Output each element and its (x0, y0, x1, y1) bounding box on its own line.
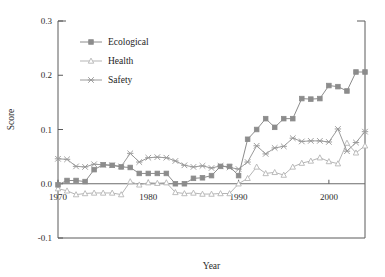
data-marker (353, 140, 359, 146)
data-marker (281, 144, 287, 150)
data-marker (272, 125, 277, 130)
data-marker (200, 175, 205, 180)
cross-marker (172, 158, 178, 164)
cross-marker (208, 165, 214, 171)
data-marker (244, 159, 250, 165)
data-marker (154, 154, 160, 160)
data-marker (317, 138, 323, 144)
square-marker (56, 183, 61, 188)
data-marker (318, 96, 323, 101)
legend-item-health[interactable]: Health (80, 56, 134, 66)
data-marker (208, 165, 214, 171)
cross-marker (353, 140, 359, 146)
data-marker (56, 183, 61, 188)
data-marker (290, 116, 295, 121)
square-marker (164, 171, 169, 176)
data-marker (335, 126, 341, 132)
square-marker (128, 165, 133, 170)
square-marker (92, 167, 97, 172)
data-marker (136, 159, 142, 165)
square-marker (318, 96, 323, 101)
cross-marker (91, 161, 97, 167)
y-tick-label: 0.1 (41, 125, 52, 135)
data-marker (181, 163, 187, 169)
cross-marker (253, 143, 259, 149)
square-marker (272, 125, 277, 130)
data-marker (326, 139, 332, 145)
square-marker (89, 40, 94, 45)
cross-marker (145, 155, 151, 161)
square-marker (227, 164, 232, 169)
square-marker (218, 164, 223, 169)
legend-item-ecological[interactable]: Ecological (80, 37, 149, 47)
square-marker (137, 171, 142, 176)
data-marker (344, 148, 350, 154)
data-marker (299, 96, 304, 101)
cross-marker (88, 77, 94, 83)
data-marker (290, 135, 296, 141)
cross-marker (163, 155, 169, 161)
x-tick-label: 1990 (230, 192, 249, 202)
square-marker (309, 97, 314, 102)
triangle-marker (344, 140, 349, 145)
square-marker (290, 116, 295, 121)
plot-frame (58, 21, 365, 238)
data-marker (64, 157, 70, 163)
legend-item-safety[interactable]: Safety (80, 75, 133, 85)
data-marker (127, 151, 133, 157)
data-marker (327, 83, 332, 88)
square-marker (191, 176, 196, 181)
square-marker (363, 70, 368, 75)
cross-marker (244, 159, 250, 165)
cross-marker (281, 144, 287, 150)
data-marker (145, 155, 151, 161)
data-marker (101, 162, 106, 167)
data-marker (119, 165, 124, 170)
square-marker (263, 116, 268, 121)
axis-frame (58, 21, 365, 238)
data-marker (362, 143, 367, 148)
data-marker (363, 70, 368, 75)
data-marker (345, 89, 350, 94)
square-marker (327, 83, 332, 88)
data-marker (236, 173, 241, 178)
data-marker (128, 165, 133, 170)
data-marker (182, 181, 187, 186)
cross-marker (199, 163, 205, 169)
data-marker (172, 158, 178, 164)
data-marker (218, 164, 223, 169)
data-marker (191, 176, 196, 181)
data-marker (253, 143, 259, 149)
triangle-marker (128, 179, 133, 184)
square-marker (146, 171, 151, 176)
data-marker (92, 167, 97, 172)
square-marker (83, 179, 88, 184)
square-marker (345, 89, 350, 94)
legend-label-safety: Safety (108, 75, 133, 85)
data-marker (199, 163, 205, 169)
data-marker (254, 164, 259, 169)
cross-marker (190, 164, 196, 170)
data-marker (74, 178, 79, 183)
chart-legend: EcologicalHealthSafety (80, 37, 149, 85)
score-trend-line-chart: -0.10.00.10.20.31970198019902000YearScor… (0, 0, 385, 277)
triangle-marker (272, 169, 277, 174)
square-marker (254, 127, 259, 132)
data-marker (137, 171, 142, 176)
square-marker (200, 175, 205, 180)
data-marker (73, 164, 79, 170)
x-tick-label: 2000 (320, 192, 339, 202)
data-marker (309, 97, 314, 102)
data-marker (190, 164, 196, 170)
cross-marker (317, 138, 323, 144)
data-marker (254, 127, 259, 132)
cross-marker (262, 151, 268, 157)
cross-marker (326, 139, 332, 145)
square-marker (155, 171, 160, 176)
data-marker (164, 171, 169, 176)
y-tick-label: -0.1 (38, 233, 52, 243)
square-marker (236, 173, 241, 178)
data-marker (262, 151, 268, 157)
data-marker (209, 173, 214, 178)
cross-marker (127, 151, 133, 157)
